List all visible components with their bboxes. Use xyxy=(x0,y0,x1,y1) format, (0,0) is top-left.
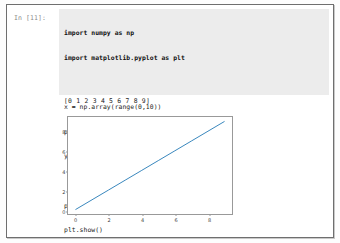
code-editor-area[interactable]: import numpy as np import matplotlib.pyp… xyxy=(59,9,329,95)
x-axis-tick-mark xyxy=(75,214,76,216)
y-axis-tick-mark xyxy=(66,191,68,192)
x-axis-tick-mark xyxy=(209,214,210,216)
cell-stdout-output: [0 1 2 3 4 5 6 7 8 9] xyxy=(64,97,150,106)
y-axis-tick-mark xyxy=(66,151,68,152)
plot-axes: 0246802468 xyxy=(67,116,233,215)
x-axis-tick-mark xyxy=(176,214,177,216)
x-axis-tick-label: 0 xyxy=(74,217,77,223)
notebook-code-cell[interactable]: In [11]: import numpy as np import matpl… xyxy=(7,9,333,95)
x-axis-tick-mark xyxy=(109,214,110,216)
plot-line-series xyxy=(68,117,232,214)
cell-input-prompt: In [11]: xyxy=(14,14,58,22)
series-polyline xyxy=(75,121,224,209)
x-axis-tick-label: 2 xyxy=(107,217,110,223)
x-axis-tick-label: 8 xyxy=(208,217,211,223)
code-line: import matplotlib.pyplot as plt xyxy=(64,54,185,62)
x-axis-tick-label: 6 xyxy=(175,217,178,223)
y-axis-tick-mark xyxy=(66,171,68,172)
y-axis-tick-mark xyxy=(66,131,68,132)
x-axis-tick-mark xyxy=(142,214,143,216)
code-line xyxy=(64,79,185,87)
code-line: import numpy as np xyxy=(64,29,185,37)
y-axis-tick-mark xyxy=(66,211,68,212)
screenshot-root: In [11]: import numpy as np import matpl… xyxy=(0,0,340,243)
matplotlib-figure-output: 0246802468 xyxy=(56,109,240,233)
x-axis-tick-label: 4 xyxy=(141,217,144,223)
notebook-frame: In [11]: import numpy as np import matpl… xyxy=(6,4,334,238)
